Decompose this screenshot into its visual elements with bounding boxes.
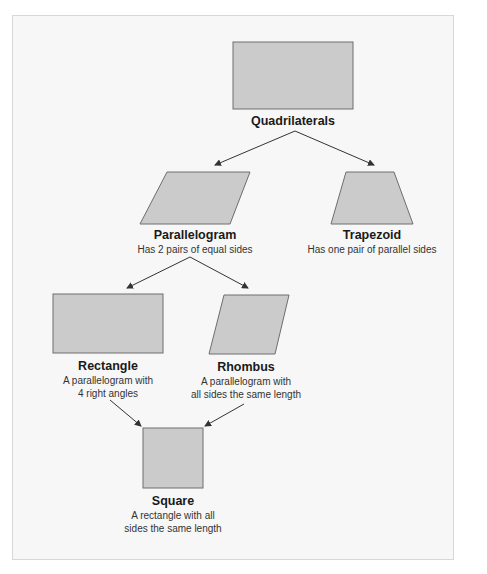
node-description: Has one pair of parallel sides [308, 243, 437, 256]
node-description-line-1: A parallelogram with [63, 374, 153, 387]
rectangle-shape [53, 294, 163, 353]
quadrilaterals-shape [233, 42, 353, 109]
rhombus-shape [209, 295, 289, 354]
node-rectangle: Rectangle A parallelogram with 4 right a… [63, 359, 153, 400]
arrow-quadrilaterals-to-parallelogram [215, 131, 295, 165]
arrow-parallelogram-to-rhombus [190, 257, 248, 288]
arrow-rectangle-to-square [110, 400, 141, 426]
node-title: Trapezoid [308, 228, 437, 243]
node-description-line-2: all sides the same length [191, 388, 301, 401]
parallelogram-shape [140, 172, 250, 224]
node-rhombus: Rhombus A parallelogram with all sides t… [191, 360, 301, 401]
node-description-line-2: sides the same length [124, 522, 221, 535]
node-title: Rectangle [63, 359, 153, 374]
node-trapezoid: Trapezoid Has one pair of parallel sides [308, 228, 437, 256]
node-square: Square A rectangle with all sides the sa… [124, 494, 221, 535]
arrow-rhombus-to-square [205, 404, 244, 426]
square-shape [143, 428, 203, 488]
node-title: Square [124, 494, 221, 509]
node-description-line-1: A rectangle with all [124, 509, 221, 522]
quadrilateral-hierarchy-diagram [0, 0, 487, 574]
arrow-quadrilaterals-to-trapezoid [295, 131, 374, 165]
node-title: Parallelogram [137, 228, 252, 243]
node-description: Has 2 pairs of equal sides [137, 243, 252, 256]
trapezoid-shape [331, 172, 413, 224]
node-title: Rhombus [191, 360, 301, 375]
node-description-line-2: 4 right angles [63, 387, 153, 400]
arrow-parallelogram-to-rectangle [127, 257, 190, 288]
node-description-line-1: A parallelogram with [191, 375, 301, 388]
node-quadrilaterals: Quadrilaterals [251, 114, 335, 129]
node-parallelogram: Parallelogram Has 2 pairs of equal sides [137, 228, 252, 256]
node-title: Quadrilaterals [251, 114, 335, 129]
